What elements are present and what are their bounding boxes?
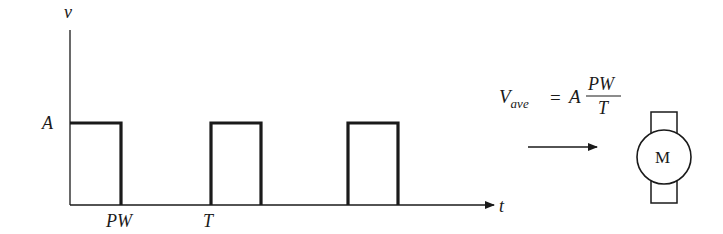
equation-lhs-subscript: ave [511,96,529,111]
pulse-1 [70,123,121,205]
motor-label: M [655,149,670,166]
y-axis-label: v [64,3,72,21]
period-label: T [203,212,213,230]
average-voltage-equation: Vave [499,87,529,110]
pulse-2 [211,123,261,205]
amplitude-label: A [42,114,53,132]
equation-coefficient: A [569,87,581,106]
equation-denominator: T [598,99,608,117]
x-axis-label: t [499,197,504,215]
equation-lhs-symbol: V [499,86,511,107]
diagram-graphics [0,0,723,234]
pwm-diagram: v t A PW T Vave = A PW T M [0,0,723,234]
pulse-width-label: PW [106,212,132,230]
equation-numerator: PW [588,75,614,93]
equation-equals: = [550,88,561,107]
pulse-3 [348,123,398,205]
